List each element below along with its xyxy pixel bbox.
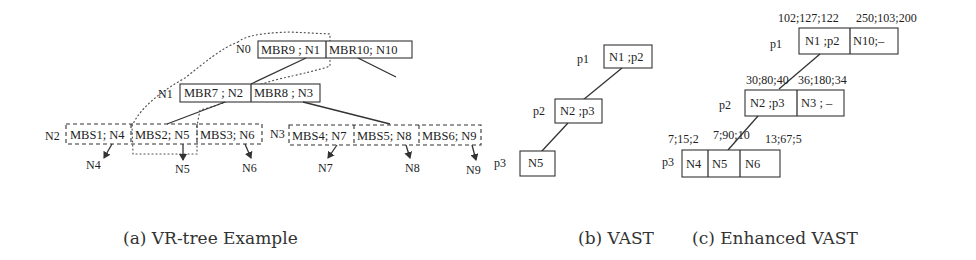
- vast-p1-entry: N1 ;p2: [609, 50, 643, 64]
- n1-entry-1: MBR7 ; N2: [184, 86, 243, 100]
- n3-entry-2: MBS5; N8: [357, 129, 412, 143]
- evast-p1-annot-1: 102;127;122: [778, 11, 839, 25]
- edge-n1-n3: [303, 102, 390, 124]
- panel-a-vr-tree: N0 MBR9 ; N1 MBR10; N10 N1 MBR7 ; N2 MBR…: [45, 32, 481, 248]
- n2-entry-1: MBS1; N4: [70, 128, 125, 142]
- evast-p3-annot-2: 7;90;10: [713, 128, 750, 142]
- n3-label: N3: [270, 127, 285, 141]
- n2-entry-3: MBS3; N6: [200, 128, 255, 142]
- n3-entry-3: MBS6; N9: [422, 129, 477, 143]
- evast-p3-entry-2: N5: [712, 157, 727, 171]
- evast-p2-annot-2: 36;180;34: [798, 73, 847, 87]
- leaf-n7: N7: [318, 161, 333, 175]
- evast-p2-entry-2: N3 ; –: [801, 96, 833, 110]
- n2-entry-2: MBS2; N5: [135, 128, 190, 142]
- evast-p3-label: p3: [662, 155, 674, 169]
- edge-n0-n10: [358, 58, 396, 77]
- caption-c: (c) Enhanced VAST: [692, 228, 858, 248]
- caption-b: (b) VAST: [578, 228, 655, 248]
- edge-vast-p1-p2: [583, 68, 622, 100]
- vast-p2-entry: N2 ;p3: [560, 104, 594, 118]
- evast-p1-label: p1: [770, 37, 782, 51]
- arrow-to-n8: [406, 145, 410, 158]
- n0-entry-1: MBR9 ; N1: [261, 43, 320, 57]
- n0-label: N0: [236, 42, 251, 56]
- figure: N0 MBR9 ; N1 MBR10; N10 N1 MBR7 ; N2 MBR…: [0, 0, 976, 260]
- evast-p1-entry-2: N10;–: [853, 34, 885, 48]
- panel-b-vast: p1 N1 ;p2 p2 N2 ;p3 p3 N5 (b) VAST: [494, 45, 655, 248]
- vast-p1-label: p1: [577, 52, 589, 66]
- evast-p1-annot-2: 250;103;200: [856, 11, 917, 25]
- leaf-n5: N5: [175, 162, 190, 176]
- evast-p3-annot-1: 7;15;2: [668, 132, 699, 146]
- n2-label: N2: [45, 129, 60, 143]
- vast-p3-label: p3: [494, 156, 506, 170]
- leaf-n4: N4: [86, 158, 101, 172]
- arrow-to-n6: [245, 144, 251, 158]
- n1-label: N1: [158, 87, 173, 101]
- edge-n1-n2: [167, 102, 225, 124]
- evast-p3-entry-1: N4: [686, 157, 702, 171]
- n3-entry-1: MBS4; N7: [292, 129, 347, 143]
- evast-p3-entry-3: N6: [745, 157, 760, 171]
- evast-p2-entry-1: N2 ;p3: [750, 96, 784, 110]
- vast-p2-label: p2: [533, 104, 545, 118]
- arrow-to-n4: [104, 144, 112, 158]
- leaf-n6: N6: [242, 161, 257, 175]
- n0-entry-2: MBR10; N10: [329, 43, 397, 57]
- panel-c-enhanced-vast: 102;127;122 250;103;200 p1 N1 ;p2 N10;– …: [662, 11, 917, 248]
- caption-a: (a) VR-tree Example: [123, 228, 298, 248]
- n1-entry-2: MBR8 ; N3: [254, 86, 313, 100]
- arrow-to-n9: [472, 145, 476, 160]
- leaf-n8: N8: [405, 161, 420, 175]
- evast-p2-label: p2: [719, 98, 731, 112]
- evast-p3-annot-3: 13;67;5: [765, 132, 802, 146]
- edge-n0-n1: [251, 58, 306, 84]
- leaf-n9: N9: [466, 163, 481, 177]
- evast-p1-entry-1: N1 ;p2: [805, 34, 839, 48]
- evast-p2-annot-1: 30;80;40: [746, 73, 789, 87]
- edge-vast-p2-p3: [541, 123, 568, 152]
- arrow-to-n7: [328, 145, 337, 158]
- vast-p3-entry: N5: [528, 156, 543, 170]
